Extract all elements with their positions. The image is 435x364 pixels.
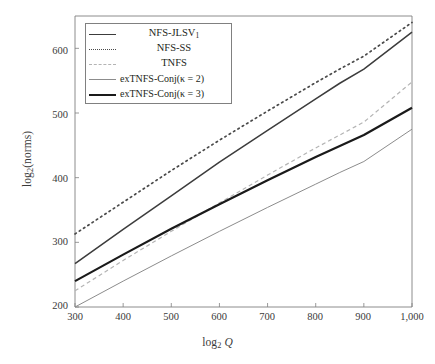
legend-label: TNFS xyxy=(120,58,228,69)
legend-label: exTNFS-Conj(κ = 3) xyxy=(120,89,228,99)
xtick-label: 500 xyxy=(151,311,191,322)
legend-item-tnfs[interactable]: TNFS xyxy=(88,57,228,71)
legend-label: NFS-SS xyxy=(120,43,228,54)
x-axis-title: log2 Q xyxy=(0,336,435,350)
legend-item-extnfs-conj-k3[interactable]: exTNFS-Conj(κ = 3) xyxy=(88,87,228,101)
ytick-label: 500 xyxy=(34,109,68,120)
xtick-label: 600 xyxy=(199,311,239,322)
series-line xyxy=(75,82,412,291)
legend-label: NFS-JLSV1 xyxy=(120,28,228,39)
ytick-label: 400 xyxy=(34,173,68,184)
figure-chart-container: 200 300 400 500 600 300 400 500 600 700 … xyxy=(0,0,435,364)
ytick-label: 200 xyxy=(34,300,68,311)
legend-swatch-thin-icon xyxy=(88,73,117,85)
ytick-label: 300 xyxy=(34,236,68,247)
legend-item-nfs-ss[interactable]: NFS-SS xyxy=(88,42,228,56)
legend-swatch-solid-icon xyxy=(88,28,117,40)
legend-item-extnfs-conj-k2[interactable]: exTNFS-Conj(κ = 2) xyxy=(88,72,228,86)
legend-swatch-thick-icon xyxy=(88,88,117,100)
legend-swatch-dotted-icon xyxy=(88,43,117,55)
xtick-label: 1,000 xyxy=(392,311,432,322)
series-line xyxy=(75,129,412,307)
series-line xyxy=(75,108,412,281)
xtick-label: 400 xyxy=(103,311,143,322)
xtick-label: 700 xyxy=(247,311,287,322)
legend-label: exTNFS-Conj(κ = 2) xyxy=(120,74,228,84)
xtick-label: 800 xyxy=(295,311,335,322)
legend-item-nfs-jlsv1[interactable]: NFS-JLSV1 xyxy=(88,27,228,41)
xtick-label: 900 xyxy=(343,311,383,322)
y-axis-title: log2(norms) xyxy=(21,79,35,239)
legend-swatch-dashed-icon xyxy=(88,58,117,70)
xtick-label: 300 xyxy=(55,311,95,322)
legend: NFS-JLSV1 NFS-SS TNFS exTNFS-Conj(κ = 2)… xyxy=(85,23,232,104)
ytick-label: 600 xyxy=(34,45,68,56)
